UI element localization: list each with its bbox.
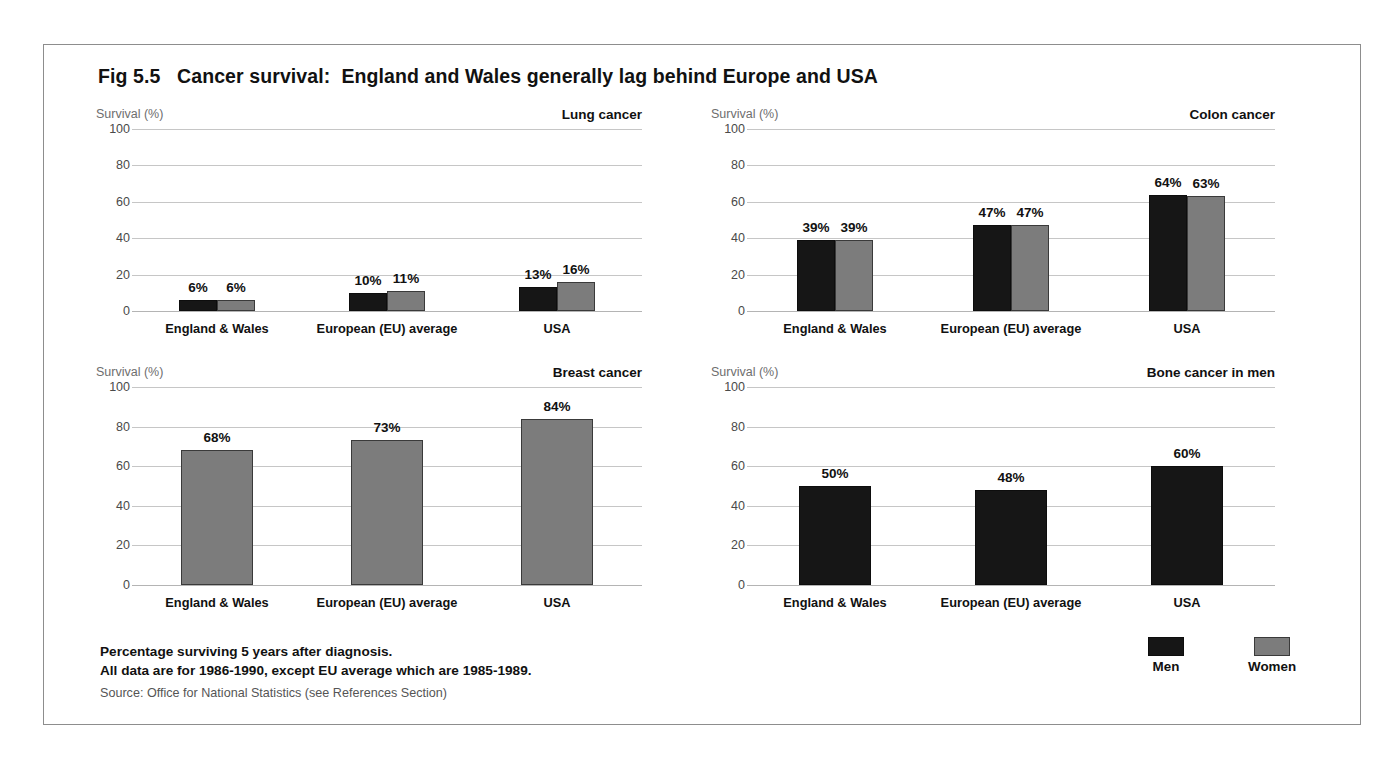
bars-layer: 39%39%England & Wales47%47%European (EU)… <box>747 129 1275 311</box>
bars-layer: 50%England & Wales48%European (EU) avera… <box>747 387 1275 585</box>
y-axis-unit-label: Survival (%) <box>96 365 163 379</box>
y-tick-label: 40 <box>116 499 130 513</box>
bar-group <box>797 129 873 311</box>
y-axis-colon: 020406080100 <box>711 129 745 311</box>
legend-label-men: Men <box>1148 659 1184 674</box>
y-axis-unit-label: Survival (%) <box>711 365 778 379</box>
bar-women-european-eu-average <box>1011 225 1049 311</box>
axis-baseline <box>132 585 642 586</box>
bar-group <box>349 129 425 311</box>
bar-group <box>975 387 1047 585</box>
y-axis-breast: 020406080100 <box>96 387 130 585</box>
bar-men-england-wales <box>799 486 871 585</box>
legend-swatch-women <box>1254 637 1290 656</box>
plot-area-bone: 50%England & Wales48%European (EU) avera… <box>747 387 1275 585</box>
y-tick-label: 20 <box>731 268 745 282</box>
plot-wrap-breast: 02040608010068%England & Wales73%Europea… <box>96 387 642 585</box>
footnotes: Percentage surviving 5 years after diagn… <box>100 642 740 703</box>
y-tick-label: 100 <box>109 122 130 136</box>
plot-wrap-colon: 02040608010039%39%England & Wales47%47%E… <box>711 129 1275 311</box>
bar-men-england-wales <box>179 300 217 311</box>
figure-title: Fig 5.5 Cancer survival: England and Wal… <box>98 65 878 88</box>
plot-area-colon: 39%39%England & Wales47%47%European (EU)… <box>747 129 1275 311</box>
y-tick-label: 20 <box>116 538 130 552</box>
panel-header-breast: Survival (%)Breast cancer <box>96 365 642 385</box>
y-tick-label: 0 <box>123 578 130 592</box>
panel-header-lung: Survival (%)Lung cancer <box>96 107 642 127</box>
bar-women-usa <box>557 282 595 311</box>
bar-men-usa <box>1149 195 1187 311</box>
bar-group <box>799 387 871 585</box>
chart-panel-lung: Survival (%)Lung cancer0204060801006%6%E… <box>96 107 642 345</box>
x-axis-label-usa: USA <box>1173 595 1200 610</box>
panel-title-bone: Bone cancer in men <box>1147 365 1275 380</box>
x-axis-label-usa: USA <box>543 595 570 610</box>
y-tick-label: 100 <box>109 380 130 394</box>
bar-women-usa <box>521 419 593 585</box>
footnote-source: Source: Office for National Statistics (… <box>100 684 740 703</box>
chart-panel-bone: Survival (%)Bone cancer in men0204060801… <box>711 365 1275 619</box>
bar-women-england-wales <box>835 240 873 311</box>
y-tick-label: 0 <box>738 578 745 592</box>
figure-frame: Fig 5.5 Cancer survival: England and Wal… <box>43 44 1361 725</box>
bar-men-usa <box>519 287 557 311</box>
y-tick-label: 60 <box>116 195 130 209</box>
y-tick-label: 0 <box>123 304 130 318</box>
chart-legend: MenWomen <box>1110 637 1340 697</box>
x-axis-label-european-eu-average: European (EU) average <box>317 321 458 336</box>
plot-wrap-lung: 0204060801006%6%England & Wales10%11%Eur… <box>96 129 642 311</box>
bar-group <box>521 387 593 585</box>
bars-layer: 6%6%England & Wales10%11%European (EU) a… <box>132 129 642 311</box>
y-tick-label: 80 <box>116 420 130 434</box>
x-axis-label-england-wales: England & Wales <box>783 595 886 610</box>
axis-baseline <box>747 585 1275 586</box>
panel-header-colon: Survival (%)Colon cancer <box>711 107 1275 127</box>
x-axis-label-england-wales: England & Wales <box>783 321 886 336</box>
bar-group <box>351 387 423 585</box>
y-axis-lung: 020406080100 <box>96 129 130 311</box>
panel-title-colon: Colon cancer <box>1189 107 1275 122</box>
x-axis-label-england-wales: England & Wales <box>165 595 268 610</box>
y-tick-label: 60 <box>116 459 130 473</box>
y-tick-label: 40 <box>731 231 745 245</box>
legend-item-men: Men <box>1148 637 1184 674</box>
x-axis-label-england-wales: England & Wales <box>165 321 268 336</box>
y-axis-unit-label: Survival (%) <box>96 107 163 121</box>
plot-area-breast: 68%England & Wales73%European (EU) avera… <box>132 387 642 585</box>
y-tick-label: 80 <box>731 158 745 172</box>
bar-women-england-wales <box>217 300 255 311</box>
bar-group <box>519 129 595 311</box>
bar-men-usa <box>1151 466 1223 585</box>
y-tick-label: 60 <box>731 459 745 473</box>
legend-swatch-men <box>1148 637 1184 656</box>
panel-title-breast: Breast cancer <box>553 365 642 380</box>
bar-group <box>973 129 1049 311</box>
x-axis-label-usa: USA <box>543 321 570 336</box>
footnote-line-2: All data are for 1986-1990, except EU av… <box>100 661 740 680</box>
y-tick-label: 60 <box>731 195 745 209</box>
bar-group <box>179 129 255 311</box>
plot-area-lung: 6%6%England & Wales10%11%European (EU) a… <box>132 129 642 311</box>
y-axis-bone: 020406080100 <box>711 387 745 585</box>
bar-group <box>181 387 253 585</box>
x-axis-label-european-eu-average: European (EU) average <box>941 595 1082 610</box>
x-axis-label-european-eu-average: European (EU) average <box>941 321 1082 336</box>
panel-title-lung: Lung cancer <box>562 107 642 122</box>
axis-baseline <box>747 311 1275 312</box>
axis-baseline <box>132 311 642 312</box>
panel-header-bone: Survival (%)Bone cancer in men <box>711 365 1275 385</box>
bar-men-european-eu-average <box>975 490 1047 585</box>
chart-panel-breast: Survival (%)Breast cancer02040608010068%… <box>96 365 642 619</box>
bar-women-european-eu-average <box>387 291 425 311</box>
y-tick-label: 40 <box>116 231 130 245</box>
x-axis-label-european-eu-average: European (EU) average <box>317 595 458 610</box>
bar-men-european-eu-average <box>349 293 387 311</box>
y-axis-unit-label: Survival (%) <box>711 107 778 121</box>
footnote-line-1: Percentage surviving 5 years after diagn… <box>100 642 740 661</box>
chart-panel-colon: Survival (%)Colon cancer02040608010039%3… <box>711 107 1275 345</box>
legend-item-women: Women <box>1248 637 1296 674</box>
y-tick-label: 100 <box>724 380 745 394</box>
bar-men-european-eu-average <box>973 225 1011 311</box>
y-tick-label: 40 <box>731 499 745 513</box>
y-tick-label: 80 <box>116 158 130 172</box>
